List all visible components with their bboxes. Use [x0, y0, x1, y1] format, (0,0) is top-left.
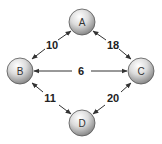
edge-weight-a-c: 18 — [107, 39, 119, 51]
edge-b-d: 11 — [32, 83, 71, 114]
node-label-a: A — [79, 17, 86, 28]
node-label-b: B — [17, 66, 24, 77]
weighted-graph-diagram: 10 18 6 11 20 A B C D — [0, 0, 162, 144]
node-c: C — [128, 58, 154, 84]
edge-b-c: 6 — [34, 65, 127, 77]
node-label-d: D — [78, 118, 85, 129]
node-b: B — [7, 58, 33, 84]
node-a: A — [69, 9, 95, 35]
edge-weight-b-a: 10 — [46, 39, 58, 51]
edge-b-a: 10 — [32, 31, 71, 59]
node-label-c: C — [137, 66, 144, 77]
edge-a-c: 18 — [93, 31, 131, 59]
edge-weight-c-d: 20 — [107, 92, 119, 104]
node-d: D — [69, 110, 95, 136]
edge-c-d: 20 — [93, 83, 131, 114]
edge-weight-b-d: 11 — [44, 92, 56, 104]
edge-weight-b-c: 6 — [78, 65, 84, 77]
